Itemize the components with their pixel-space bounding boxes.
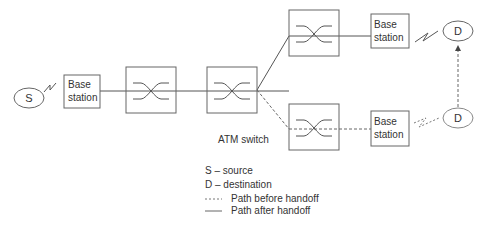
svg-text:S: S <box>25 92 32 104</box>
svg-text:station: station <box>374 32 403 43</box>
atm-switch-top <box>289 10 339 56</box>
atm-switch-2 <box>207 67 257 113</box>
wireless-link-icon <box>415 31 438 42</box>
base-station-top: Base station <box>371 14 409 48</box>
legend: S – source D – destination Path before h… <box>205 165 319 216</box>
atm-switch-label: ATM switch <box>218 134 269 145</box>
svg-text:S – source: S – source <box>205 165 253 176</box>
svg-text:Path after handoff: Path after handoff <box>231 205 311 216</box>
base-station-left: Base station <box>64 75 100 108</box>
atm-switch-1 <box>126 67 176 113</box>
svg-text:station: station <box>68 92 97 103</box>
svg-text:D: D <box>454 112 462 124</box>
destination-top: D <box>443 21 473 41</box>
atm-switch-bottom <box>289 104 339 150</box>
base-station-bottom: Base station <box>371 111 409 146</box>
source-node: S <box>14 88 44 108</box>
destination-bottom: D <box>443 108 473 128</box>
wireless-link-icon <box>44 83 56 92</box>
svg-text:Base: Base <box>374 19 397 30</box>
svg-text:station: station <box>374 129 403 140</box>
svg-text:Base: Base <box>68 79 91 90</box>
svg-text:D: D <box>454 25 462 37</box>
svg-text:Base: Base <box>374 116 397 127</box>
path-before-handoff <box>257 48 458 129</box>
svg-text:Path before handoff: Path before handoff <box>231 193 319 204</box>
handoff-diagram: S Base station ATM switch Base station B… <box>0 0 491 228</box>
svg-text:D – destination: D – destination <box>205 179 272 190</box>
wireless-link-icon <box>414 118 439 127</box>
